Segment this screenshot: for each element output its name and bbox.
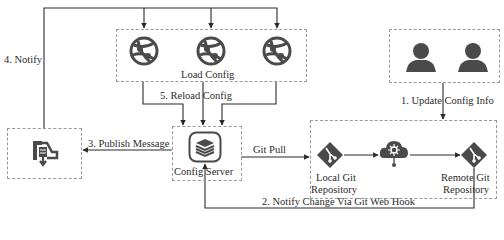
config-server-label: Config Server xyxy=(174,166,233,178)
remote-git-label-line1: Remote Git xyxy=(441,172,490,184)
message-queue-icon[interactable] xyxy=(30,138,60,168)
git-pull-label: Git Pull xyxy=(253,144,286,156)
update-config-label: 1. Update Config Info xyxy=(401,95,494,107)
git-icon[interactable] xyxy=(316,141,344,169)
remote-git-label-line2: Repository xyxy=(443,184,489,196)
globe-app-icon[interactable] xyxy=(195,35,227,67)
reload-config-label: 5. Reload Config xyxy=(160,90,232,102)
globe-app-icon[interactable] xyxy=(261,35,293,67)
user-icon[interactable] xyxy=(456,40,490,74)
user-icon[interactable] xyxy=(404,40,438,74)
local-git-label-line2: Repository xyxy=(311,184,357,196)
database-stack-icon[interactable] xyxy=(188,131,222,163)
globe-app-icon[interactable] xyxy=(128,35,160,67)
notify-label: 4. Notify xyxy=(4,54,42,66)
git-icon[interactable] xyxy=(460,141,488,169)
publish-message-label: 3. Publish Message xyxy=(88,138,169,150)
local-git-label-line1: Local Git xyxy=(316,172,356,184)
cloud-network-icon[interactable] xyxy=(378,138,410,168)
load-config-label: Load Config xyxy=(181,69,234,81)
